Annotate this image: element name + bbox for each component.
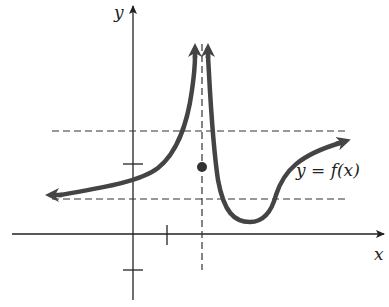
isolated-point bbox=[197, 162, 207, 172]
y-axis-label: y bbox=[113, 2, 124, 22]
curve-label: y = f(x) bbox=[295, 160, 360, 180]
x-axis-label: x bbox=[374, 244, 384, 264]
curve-right-branch bbox=[208, 56, 340, 222]
function-graph: y x y = f(x) bbox=[0, 0, 389, 307]
curve-left-branch bbox=[60, 56, 195, 195]
